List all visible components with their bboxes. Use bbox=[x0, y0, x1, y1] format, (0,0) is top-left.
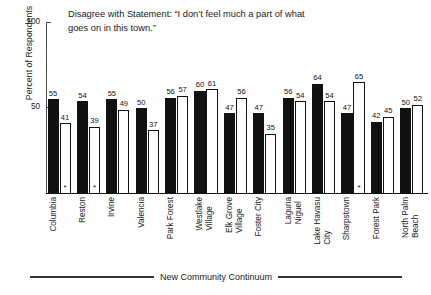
plot-area: 5541*5439*554950375657606147564735565464… bbox=[46, 22, 428, 194]
bar-value-label: 55 bbox=[104, 89, 120, 98]
bar-value-label: 47 bbox=[251, 103, 267, 112]
y-tick-label-50: 50 bbox=[14, 102, 40, 111]
bar-value-label: 54 bbox=[292, 91, 308, 100]
bar-filled-4 bbox=[165, 98, 176, 194]
bar-open-8 bbox=[295, 101, 306, 194]
bar-open-5 bbox=[206, 89, 217, 194]
bar-value-label: 61 bbox=[204, 79, 220, 88]
bar-value-label: 55 bbox=[45, 89, 61, 98]
significance-asterisk: * bbox=[89, 185, 100, 191]
bar-filled-6 bbox=[224, 113, 235, 194]
bar-filled-9 bbox=[312, 84, 323, 194]
caption-rule-right bbox=[278, 276, 402, 277]
bar-open-3 bbox=[148, 130, 159, 194]
bar-filled-8 bbox=[283, 98, 294, 194]
bar-filled-1 bbox=[77, 101, 88, 194]
x-category-label-7: Foster City bbox=[254, 197, 264, 237]
bar-open-7 bbox=[265, 134, 276, 194]
bar-value-label: 50 bbox=[133, 98, 149, 107]
x-category-label-1: Reston bbox=[78, 197, 88, 223]
bar-open-10 bbox=[353, 82, 364, 194]
bar-open-2 bbox=[118, 110, 129, 194]
chart-figure: Disagree with Statement: “I don’t feel m… bbox=[0, 0, 431, 295]
x-category-label-2: Irvine bbox=[107, 197, 117, 217]
bar-value-label: 35 bbox=[263, 123, 279, 132]
x-category-label-10: Sharpstown bbox=[342, 197, 352, 240]
x-category-label-0: Columbia bbox=[49, 197, 59, 232]
bar-value-label: 65 bbox=[351, 72, 367, 81]
bar-value-label: 39 bbox=[86, 116, 102, 125]
bar-value-label: 57 bbox=[175, 85, 191, 94]
bar-open-12 bbox=[412, 105, 423, 194]
caption-rule-left bbox=[30, 276, 154, 277]
x-category-label-11: Forest Park bbox=[372, 197, 382, 239]
bar-filled-5 bbox=[194, 91, 205, 194]
bar-value-label: 54 bbox=[321, 91, 337, 100]
x-axis-caption-text: New Community Continuum bbox=[160, 272, 272, 282]
bar-value-label: 45 bbox=[380, 106, 396, 115]
x-category-label-5: Westlake Village bbox=[195, 197, 214, 231]
bar-open-9 bbox=[324, 101, 335, 194]
x-category-label-12: North Palm Beach bbox=[401, 197, 420, 238]
bar-open-11 bbox=[383, 117, 394, 194]
bar-value-label: 37 bbox=[145, 120, 161, 129]
x-category-label-9: Lake Havasu City bbox=[313, 197, 332, 245]
bar-value-label: 64 bbox=[309, 73, 325, 82]
x-category-label-3: Valencia bbox=[137, 197, 147, 228]
bar-open-4 bbox=[177, 96, 188, 194]
significance-asterisk: * bbox=[353, 185, 364, 191]
significance-asterisk: * bbox=[60, 185, 71, 191]
x-category-label-4: Park Forest bbox=[166, 197, 176, 239]
bar-filled-2 bbox=[106, 99, 117, 194]
x-axis-caption: New Community Continuum bbox=[30, 272, 402, 282]
bar-value-label: 56 bbox=[233, 87, 249, 96]
bar-open-6 bbox=[236, 98, 247, 194]
bar-value-label: 41 bbox=[57, 113, 73, 122]
bar-filled-11 bbox=[371, 122, 382, 194]
x-category-label-6: Elk Grove Village bbox=[225, 197, 244, 233]
bar-value-label: 54 bbox=[74, 91, 90, 100]
y-tick-label-100: 100 bbox=[14, 17, 40, 26]
bar-value-label: 49 bbox=[116, 99, 132, 108]
bar-value-label: 52 bbox=[410, 94, 426, 103]
x-category-label-8: Laguna Niguel bbox=[284, 197, 303, 224]
bar-filled-12 bbox=[400, 108, 411, 194]
bar-filled-10 bbox=[341, 113, 352, 194]
